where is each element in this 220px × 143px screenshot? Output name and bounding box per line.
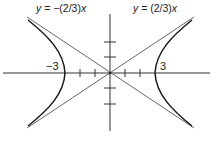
vertex-label-right: 3 (160, 61, 166, 72)
label-x: x (172, 2, 177, 14)
label-eq: = (2/3) (138, 2, 172, 14)
label-x: x (81, 2, 86, 14)
asymptote-label-positive: y = (2/3)x (133, 3, 177, 14)
hyperbola-diagram (0, 0, 220, 143)
origin-point (109, 72, 112, 75)
asymptote-label-negative: y = −(2/3)x (36, 3, 86, 14)
vertex-label-left: −3 (46, 61, 59, 72)
label-eq: = −(2/3) (41, 2, 81, 14)
